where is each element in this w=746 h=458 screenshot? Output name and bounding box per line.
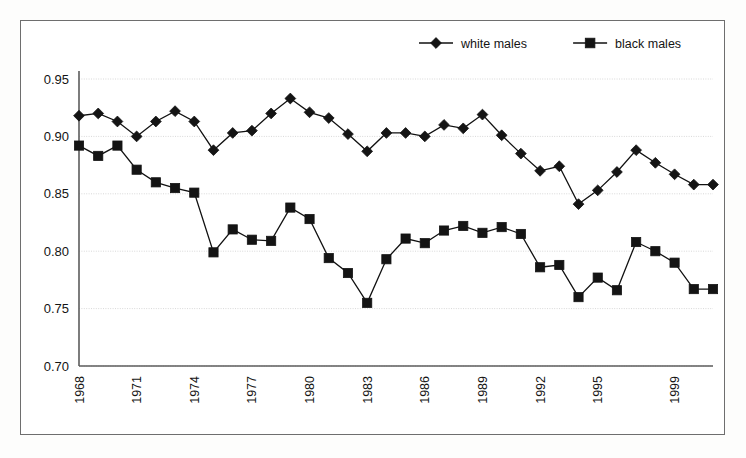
legend-entry-black-males[interactable]: black males: [573, 37, 681, 51]
data-point-marker: [150, 116, 161, 127]
data-point-marker: [190, 188, 199, 197]
data-point-marker: [400, 128, 411, 139]
chart-legend: white malesblack males: [419, 37, 681, 51]
data-point-marker: [151, 178, 160, 187]
data-point-marker: [131, 131, 142, 142]
data-point-marker: [670, 258, 679, 267]
gridlines: [79, 79, 713, 366]
data-point-marker: [458, 123, 469, 134]
x-tick-label-1980: 1980: [303, 376, 317, 404]
x-tick-label-1999: 1999: [668, 376, 682, 404]
x-axis-tick-labels: 1968197119741977198019831986198919921995…: [73, 376, 683, 404]
y-tick-label-0.85: 0.85: [44, 186, 69, 201]
data-point-marker: [363, 298, 372, 307]
data-point-marker: [689, 284, 698, 293]
data-point-marker: [593, 273, 602, 282]
data-point-marker: [516, 229, 525, 238]
legend-entry-white-males[interactable]: white males: [419, 37, 527, 51]
data-point-marker: [574, 293, 583, 302]
data-point-marker: [632, 237, 641, 246]
x-tick-label-1986: 1986: [418, 376, 432, 404]
chart-canvas: 0.950.900.850.800.750.70 196819711974197…: [21, 21, 723, 433]
data-point-marker: [439, 120, 450, 131]
data-point-marker: [267, 236, 276, 245]
data-point-marker: [420, 239, 429, 248]
data-point-marker: [555, 260, 564, 269]
diamond-marker: [431, 38, 442, 49]
x-tick-label-1989: 1989: [476, 376, 490, 404]
data-point-marker: [401, 234, 410, 243]
data-point-marker: [497, 222, 506, 231]
data-point-marker: [304, 107, 315, 118]
data-point-marker: [74, 110, 85, 121]
data-point-marker: [612, 286, 621, 295]
y-tick-label-0.90: 0.90: [44, 129, 69, 144]
data-point-marker: [651, 247, 660, 256]
data-point-marker: [94, 151, 103, 160]
x-tick-label-1971: 1971: [130, 376, 144, 404]
data-point-marker: [419, 131, 430, 142]
data-point-marker: [285, 93, 296, 104]
data-point-marker: [189, 116, 200, 127]
data-point-marker: [228, 225, 237, 234]
y-tick-label-0.70: 0.70: [44, 359, 69, 374]
data-point-marker: [170, 183, 179, 192]
x-tick-label-1977: 1977: [245, 376, 259, 404]
data-point-marker: [113, 141, 122, 150]
y-tick-label-0.75: 0.75: [44, 301, 69, 316]
legend-label: black males: [615, 37, 681, 51]
x-tick-label-1992: 1992: [534, 376, 548, 404]
data-point-marker: [688, 179, 699, 190]
data-point-marker: [478, 228, 487, 237]
data-point-marker: [669, 169, 680, 180]
x-tick-label-1983: 1983: [361, 376, 375, 404]
data-point-marker: [343, 268, 352, 277]
data-point-marker: [324, 253, 333, 262]
data-point-marker: [535, 263, 544, 272]
data-point-marker: [708, 179, 719, 190]
x-tick-label-1995: 1995: [591, 376, 605, 404]
x-tick-label-1968: 1968: [73, 376, 87, 404]
data-series-group: [74, 93, 719, 307]
legend-label: white males: [460, 37, 527, 51]
x-tick-label-1974: 1974: [188, 376, 202, 404]
data-point-marker: [650, 157, 661, 168]
data-point-marker: [573, 199, 584, 210]
data-point-marker: [439, 226, 448, 235]
data-point-marker: [247, 235, 256, 244]
data-point-marker: [112, 116, 123, 127]
figure-root: 0.950.900.850.800.750.70 196819711974197…: [0, 0, 746, 458]
data-point-marker: [170, 106, 181, 117]
data-point-marker: [305, 214, 314, 223]
data-point-marker: [708, 284, 717, 293]
data-point-marker: [93, 108, 104, 119]
series-black-males: [74, 141, 717, 307]
chart-outer-frame: 0.950.900.850.800.750.70 196819711974197…: [20, 20, 725, 435]
data-point-marker: [382, 255, 391, 264]
data-point-marker: [286, 203, 295, 212]
y-tick-label-0.95: 0.95: [44, 72, 69, 87]
data-point-marker: [209, 248, 218, 257]
y-axis-tick-labels: 0.950.900.850.800.750.70: [44, 72, 69, 374]
data-point-marker: [74, 141, 83, 150]
data-point-marker: [459, 221, 468, 230]
square-marker: [585, 38, 595, 48]
y-tick-label-0.80: 0.80: [44, 244, 69, 259]
data-point-marker: [554, 161, 565, 172]
data-point-marker: [132, 165, 141, 174]
